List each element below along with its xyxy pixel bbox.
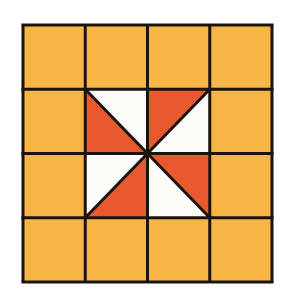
grid-cell [148,25,210,89]
grid-cell [23,25,85,89]
grid-cell [210,154,272,218]
grid-cell [148,218,210,282]
grid-cell [85,218,147,282]
grid-cell [210,218,272,282]
grid-cell [23,218,85,282]
grid-cell [23,154,85,218]
grid-cell [85,25,147,89]
grid-cell [23,89,85,153]
grid-cell [210,89,272,153]
pinwheel-grid-figure [0,0,287,297]
grid-cell [210,25,272,89]
